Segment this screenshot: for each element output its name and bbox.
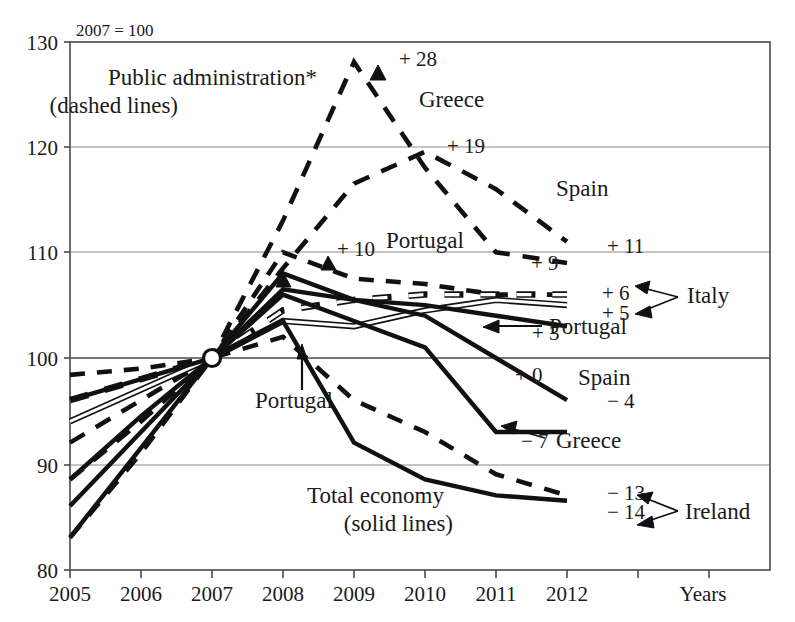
- value-label-spain-dashed-end: + 11: [607, 234, 644, 258]
- x-axis-title: Years: [680, 582, 727, 606]
- series-label-spain-solid: Spain: [578, 365, 631, 390]
- x-tick-label-2011: 2011: [475, 582, 516, 606]
- y-tick-label-100: 100: [27, 347, 59, 371]
- legend-public-admin-line1: Public administration*: [108, 65, 317, 90]
- value-label-spain-solid-mid: + 0: [515, 363, 543, 387]
- value-label-greece-peak: + 28: [399, 47, 437, 71]
- y-tick-label-130: 130: [27, 31, 59, 55]
- value-label-italy-solid-end: + 5: [602, 301, 630, 325]
- y-axis-ticks: [64, 42, 70, 570]
- x-tick-label-2007: 2007: [191, 582, 233, 606]
- series-label-italy: Italy: [687, 283, 730, 308]
- legend-public-admin-line2: (dashed lines): [50, 93, 178, 118]
- legend-total-economy-line1: Total economy: [307, 483, 444, 508]
- series-label-greece-dashed: Greece: [419, 87, 484, 112]
- series-label-portugal-dashed: Portugal: [386, 228, 464, 253]
- value-label-greece-dashed-end: + 9: [531, 251, 559, 275]
- value-label-ireland-solid-end: − 14: [607, 500, 646, 524]
- line-chart: 130 120 110 100 90 80 2005 2006 2007 200…: [0, 0, 795, 622]
- x-tick-label-2010: 2010: [404, 582, 446, 606]
- y-tick-label-90: 90: [37, 454, 58, 478]
- value-label-spain-peak: + 19: [447, 134, 485, 158]
- value-label-portugal-dashed: + 10: [337, 237, 375, 261]
- value-label-portugal-solid-end: + 3: [532, 321, 560, 345]
- series-label-spain-dashed: Spain: [556, 176, 609, 201]
- value-label-spain-solid-final: − 4: [607, 389, 635, 413]
- x-tick-label-2005: 2005: [49, 582, 91, 606]
- x-tick-label-2006: 2006: [120, 582, 162, 606]
- chart-container: 130 120 110 100 90 80 2005 2006 2007 200…: [0, 0, 795, 622]
- series-label-portugal-center: Portugal: [255, 388, 333, 413]
- x-tick-label-2012: 2012: [546, 582, 588, 606]
- y-tick-label-80: 80: [37, 559, 58, 583]
- series-label-ireland: Ireland: [685, 499, 751, 524]
- y-tick-label-110: 110: [27, 241, 58, 265]
- index-note: 2007 = 100: [76, 21, 154, 40]
- y-tick-label-120: 120: [27, 136, 59, 160]
- x-tick-label-2009: 2009: [333, 582, 375, 606]
- convergence-marker-2007: [204, 350, 221, 367]
- x-axis-ticks: [70, 570, 709, 578]
- x-tick-label-2008: 2008: [262, 582, 304, 606]
- series-label-greece-solid: Greece: [556, 428, 621, 453]
- legend-total-economy-line2: (solid lines): [344, 511, 453, 536]
